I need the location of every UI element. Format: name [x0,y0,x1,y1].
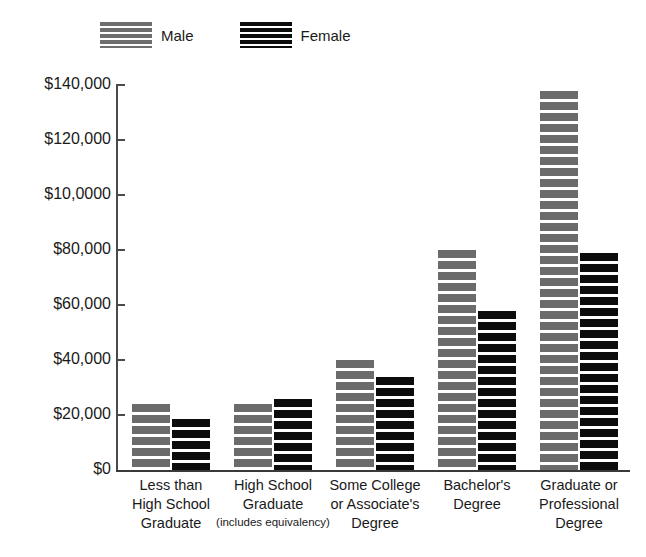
bar-male-group-4 [438,250,476,470]
x-axis-label-line: Graduate or [520,476,638,495]
bar-female-group-2 [274,399,312,471]
bar-female-group-3 [376,377,414,471]
x-axis-label-line: Graduate [112,514,230,533]
x-axis-label-line: Degree [316,514,434,533]
bar-male-group-5 [540,91,578,471]
x-axis-label-4: Bachelor'sDegree [418,476,536,514]
bar-female-group-5 [580,253,618,470]
bar-male-group-2 [234,404,272,470]
x-axis-label-line: Some College [316,476,434,495]
bar-female-group-4 [478,311,516,471]
x-axis-label-line: Degree [418,495,536,514]
x-axis-label-line: or Associate's [316,495,434,514]
x-axis-label-5: Graduate orProfessionalDegree [520,476,638,533]
x-axis-label-line: High School [112,495,230,514]
x-axis-label-2: High SchoolGraduate(includes equivalency… [214,476,332,530]
bar-female-group-1 [172,419,210,470]
x-axis-label-3: Some Collegeor Associate'sDegree [316,476,434,533]
bar-male-group-1 [132,404,170,470]
bars-layer [0,0,646,557]
x-axis-category-labels: Less thanHigh SchoolGraduateHigh SchoolG… [0,476,646,554]
x-axis-label-line: Bachelor's [418,476,536,495]
bar-chart: Male Female $140,000$120,000$10,0000$80,… [0,0,646,557]
x-axis-label-line: Less than [112,476,230,495]
x-axis-label-line: Graduate [214,495,332,514]
bar-male-group-3 [336,360,374,470]
x-axis-label-line: Professional [520,495,638,514]
x-axis-label-1: Less thanHigh SchoolGraduate [112,476,230,533]
x-axis-label-line: (includes equivalency) [214,514,332,530]
x-axis-label-line: High School [214,476,332,495]
x-axis-label-line: Degree [520,514,638,533]
